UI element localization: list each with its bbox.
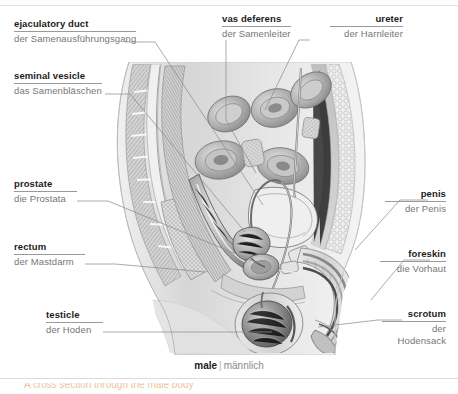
caption-german: männlich xyxy=(224,360,264,371)
caption-english: male xyxy=(194,360,217,371)
label-prostate-rule xyxy=(14,191,77,192)
top-divider xyxy=(0,5,458,6)
label-vas-deferens: vas deferens der Samenleiter xyxy=(222,13,291,40)
label-ureter-de: der Harnleiter xyxy=(330,28,403,40)
label-foreskin-rule xyxy=(380,261,446,262)
label-vas-deferens-rule xyxy=(222,26,291,27)
label-scrotum-en: scrotum xyxy=(382,308,446,321)
label-penis-de: der Penis xyxy=(385,203,446,215)
label-testicle-rule xyxy=(46,322,103,323)
label-penis-en: penis xyxy=(385,188,446,201)
label-vas-deferens-en: vas deferens xyxy=(222,13,291,26)
label-scrotum-de-line2: Hodensack xyxy=(382,335,446,347)
label-prostate-de: die Prostata xyxy=(14,193,77,205)
label-ejaculatory-duct-rule xyxy=(14,31,136,32)
label-scrotum-rule xyxy=(382,321,446,322)
footer-clipped-text: A cross section through the male body xyxy=(24,383,194,390)
label-foreskin: foreskin die Vorhaut xyxy=(380,248,446,275)
label-rectum-rule xyxy=(14,254,85,255)
label-foreskin-en: foreskin xyxy=(380,248,446,261)
label-ureter: ureter der Harnleiter xyxy=(330,13,403,40)
label-seminal-vesicle: seminal vesicle das Samenbläschen xyxy=(14,70,102,97)
label-ejaculatory-duct-de: der Samenausführungsgang xyxy=(14,33,136,45)
label-testicle: testicle der Hoden xyxy=(46,309,103,336)
label-penis-rule xyxy=(385,201,446,202)
label-seminal-vesicle-en: seminal vesicle xyxy=(14,70,102,83)
label-prostate: prostate die Prostata xyxy=(14,178,77,205)
label-ejaculatory-duct: ejaculatory duct der Samenausführungsgan… xyxy=(14,18,136,45)
diagram-page: ejaculatory duct der Samenausführungsgan… xyxy=(0,0,458,394)
label-scrotum: scrotum der Hodensack xyxy=(382,308,446,347)
label-penis: penis der Penis xyxy=(385,188,446,215)
figure-caption: male|männlich xyxy=(0,360,458,371)
label-ureter-en: ureter xyxy=(330,13,403,26)
bottom-divider xyxy=(0,378,458,379)
label-ureter-rule xyxy=(330,26,403,27)
label-testicle-en: testicle xyxy=(46,309,103,322)
footer-clipped-text-region: A cross section through the male body xyxy=(24,383,434,394)
anatomy-illustration xyxy=(103,62,371,355)
label-prostate-en: prostate xyxy=(14,178,77,191)
label-scrotum-de-line1: der xyxy=(382,323,446,335)
label-rectum-de: der Mastdarm xyxy=(14,256,85,268)
label-seminal-vesicle-de: das Samenbläschen xyxy=(14,85,102,97)
caption-separator: | xyxy=(217,360,224,371)
label-ejaculatory-duct-en: ejaculatory duct xyxy=(14,18,136,31)
label-rectum: rectum der Mastdarm xyxy=(14,241,85,268)
label-foreskin-de: die Vorhaut xyxy=(380,263,446,275)
label-seminal-vesicle-rule xyxy=(14,83,102,84)
label-rectum-en: rectum xyxy=(14,241,85,254)
label-testicle-de: der Hoden xyxy=(46,324,103,336)
label-vas-deferens-de: der Samenleiter xyxy=(222,28,291,40)
